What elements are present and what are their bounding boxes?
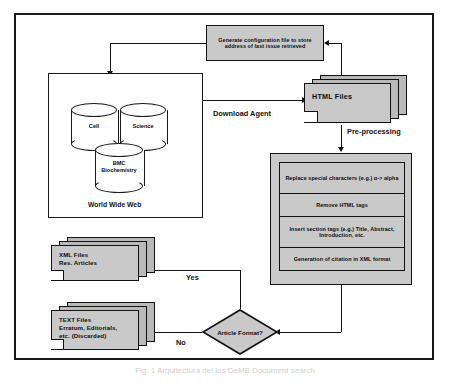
figure-diagram: Generate configuration file to store add… [0,0,450,384]
html-files-label: HTML Files [312,92,352,101]
preprocessing-box: Replace special characters (e.g.) α-> al… [270,153,412,285]
edge-html-to-config-horizontal [329,43,341,44]
decision-article-format: Article Format? [202,309,278,355]
page-dogear [51,270,64,280]
preprocessing-step: Remove HTML tags [279,193,405,217]
edge-preprocessing-to-decision-vertical [341,285,342,332]
database-bmc-label: BMC Biochemistry [95,160,143,174]
config-file-box: Generate configuration file to store add… [206,25,324,61]
arrowhead-html-to-config [324,40,329,46]
figure-caption: Fig. 1 Arquitectura del los DeMB Documen… [0,366,450,382]
preprocessing-step: Replace special characters (e.g.) α-> al… [279,162,405,194]
preprocessing-step-label: Generation of citation in XML format [294,256,391,262]
cylinder-top [95,143,143,157]
cylinder-top [120,103,166,117]
edge-preprocessing [341,125,342,149]
edge-no-branch [153,332,202,333]
yes-label: Yes [186,273,199,282]
preprocessing-step-label: Replace special characters (e.g.) α-> al… [285,175,398,181]
edge-preprocessing-to-decision-horizontal [280,332,341,333]
preprocessing-step-label: Remove HTML tags [316,202,368,208]
arrowhead-preprocessing [338,147,344,152]
edge-config-to-web-horizontal [110,43,206,44]
edge-yes-branch-horizontal [153,270,240,271]
database-science-label: Science [120,123,166,130]
preprocessing-step: Insert section tags (e.g.) Title, Abstra… [279,216,405,248]
xml-files-label-line1: XML Files [59,251,88,259]
database-bmc-biochemistry: BMC Biochemistry [95,143,143,193]
html-files-stack: HTML Files [304,75,406,125]
text-files-label-line1: TEXT Files [59,316,91,324]
config-file-label: Generate configuration file to store add… [212,37,318,49]
text-files-label-line2: Erratum, Editorials, [59,324,117,332]
decision-label: Article Format? [202,329,278,336]
text-files-label-line3: etc. (Discarded) [59,332,106,340]
cylinder-bottom [95,179,143,193]
xml-files-stack: XML Files Res. Articles [51,237,155,283]
xml-files-label-line2: Res. Articles [59,259,97,267]
edge-yes-branch-vertical [240,270,241,309]
figure-frame: Generate configuration file to store add… [14,13,434,360]
edge-config-to-web-vertical [110,43,111,73]
preprocessing-label: Pre-processing [347,127,401,136]
no-label: No [176,338,186,347]
text-files-stack: TEXT Files Erratum, Editorials, etc. (Di… [51,302,155,352]
preprocessing-step-label: Insert section tags (e.g.) Title, Abstra… [283,226,401,239]
database-cell-label: Cell [71,123,117,130]
edge-download-agent [203,100,304,101]
world-wide-web-label: World Wide Web [88,201,141,208]
cylinder-top [71,103,117,117]
page-dogear [51,339,64,349]
download-agent-label: Download Agent [213,109,271,118]
preprocessing-step: Generation of citation in XML format [279,247,405,271]
page-dogear [304,111,318,122]
